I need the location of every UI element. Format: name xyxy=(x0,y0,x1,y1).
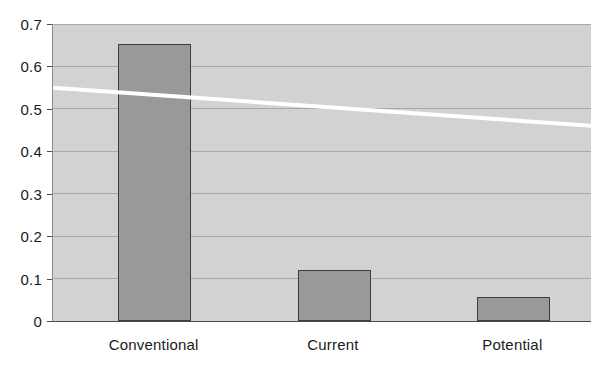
x-tick-label: Potential xyxy=(482,336,542,353)
y-tick-label: 0.2 xyxy=(21,228,42,245)
y-tick-label: 0.7 xyxy=(21,16,42,33)
bar-chart: 00.10.20.30.40.50.60.7 ConventionalCurre… xyxy=(0,0,606,368)
plot-area xyxy=(52,24,591,322)
x-tick-label: Current xyxy=(307,336,358,353)
x-axis: ConventionalCurrentPotential xyxy=(52,322,590,368)
bars-layer xyxy=(53,24,591,321)
y-tick-label: 0.1 xyxy=(21,270,42,287)
y-tick-label: 0.4 xyxy=(21,143,42,160)
x-tick-label: Conventional xyxy=(109,336,199,353)
y-tick-label: 0.3 xyxy=(21,185,42,202)
bar xyxy=(477,297,550,321)
y-tick-label: 0.6 xyxy=(21,58,42,75)
y-tick-label: 0 xyxy=(33,313,42,330)
y-tick-label: 0.5 xyxy=(21,100,42,117)
bar xyxy=(118,44,191,321)
y-axis: 00.10.20.30.40.50.60.7 xyxy=(0,0,52,345)
bar xyxy=(298,270,371,321)
